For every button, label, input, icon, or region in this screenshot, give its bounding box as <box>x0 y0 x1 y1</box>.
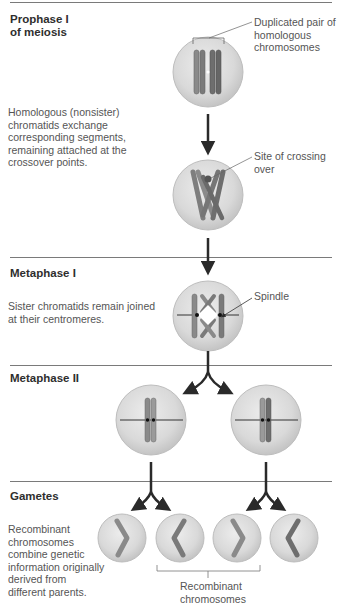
gamete-cell-4 <box>270 514 318 562</box>
gamete-cell-2 <box>156 514 204 562</box>
cell-metaphase2-right <box>231 385 301 455</box>
cell-crossing-over <box>173 157 252 230</box>
cell-metaphase1 <box>173 281 252 351</box>
gamete-cell-1 <box>98 514 146 562</box>
cell-metaphase2-left <box>116 385 186 455</box>
recombinant-bracket <box>157 565 260 571</box>
cell-prophase1 <box>173 22 252 107</box>
meiosis-diagram <box>0 0 349 611</box>
gamete-cell-3 <box>213 514 261 562</box>
